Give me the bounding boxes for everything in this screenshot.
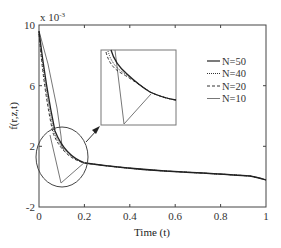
zoom-region-ellipse: [36, 127, 88, 187]
y-tick-label: 2: [30, 140, 36, 152]
series-n10: [39, 31, 64, 150]
arrow-icon: [86, 126, 100, 142]
legend-item: N=40: [222, 68, 246, 79]
x-tick-label: 0.2: [78, 210, 92, 222]
y-scale-factor: x 10-3: [40, 11, 66, 23]
x-tick-label: 1: [263, 210, 269, 222]
legend: N=50 N=40 N=20 N=10: [207, 56, 246, 105]
x-tick-label: 0.8: [214, 210, 228, 222]
y-axis-label: f(r,z,t): [7, 102, 20, 130]
legend-item: N=50: [222, 56, 246, 67]
x-axis-label: Time (t): [134, 226, 170, 239]
chart: 0 0.2 0.4 0.6 0.8 1 10 6 2 -2 x 10-3 Tim…: [0, 0, 281, 248]
inset-plot: [101, 50, 176, 125]
y-tick-label: -2: [26, 201, 35, 213]
legend-item: N=20: [222, 81, 246, 92]
legend-item: N=10: [222, 93, 246, 104]
x-tick-label: 0.6: [168, 210, 182, 222]
zoom-indicator-lines: [50, 135, 85, 183]
x-tick-label: 0.4: [123, 210, 137, 222]
y-tick-label: 6: [30, 80, 36, 92]
y-tick-label: 10: [24, 19, 36, 31]
x-tick-label: 0: [36, 210, 42, 222]
